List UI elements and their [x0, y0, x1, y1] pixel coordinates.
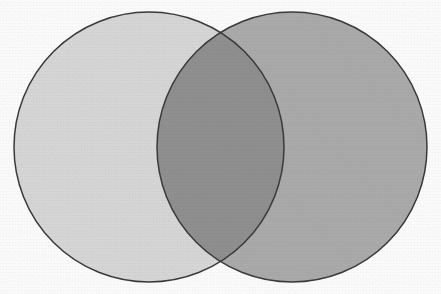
- venn-diagram-canvas: [0, 0, 441, 294]
- venn-diagram: [0, 0, 441, 294]
